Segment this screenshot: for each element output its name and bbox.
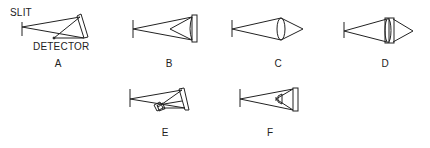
panel-label-d: D bbox=[381, 58, 388, 69]
panel-f-diagram bbox=[240, 88, 298, 111]
panel-b-diagram bbox=[133, 15, 197, 42]
panel-label-e: E bbox=[162, 127, 169, 138]
panel-e-diagram bbox=[130, 88, 189, 111]
panel-label-c: C bbox=[274, 58, 281, 69]
panel-label-a: A bbox=[55, 58, 62, 69]
panel-label-f: F bbox=[267, 127, 273, 138]
panel-label-b: B bbox=[166, 58, 173, 69]
panel-d-diagram bbox=[344, 18, 413, 43]
optics-diagram bbox=[0, 0, 430, 148]
slit-label: SLIT bbox=[10, 7, 32, 18]
panel-c-diagram bbox=[232, 18, 303, 40]
detector-label: DETECTOR bbox=[33, 41, 89, 52]
